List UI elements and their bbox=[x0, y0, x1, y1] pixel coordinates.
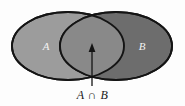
set-b-label: B bbox=[139, 40, 146, 52]
intersection-caption: A ∩ B bbox=[0, 88, 185, 102]
set-a-label: A bbox=[42, 40, 50, 52]
venn-diagram-figure: A B A ∩ B bbox=[0, 0, 185, 106]
